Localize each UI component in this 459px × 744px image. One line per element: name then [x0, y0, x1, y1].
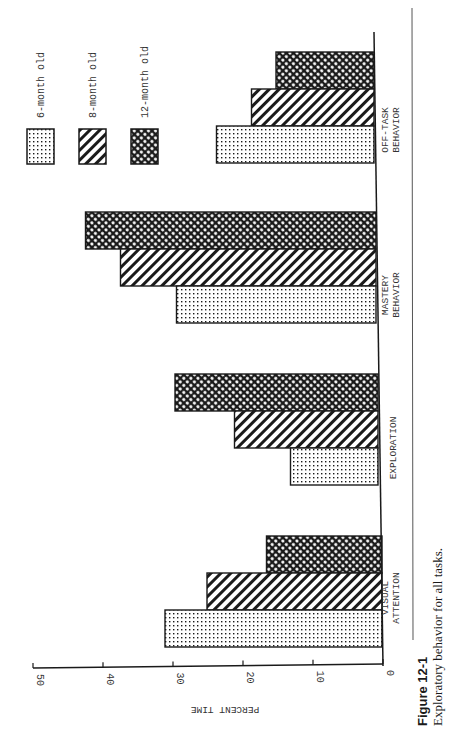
legend-item: 12-month old	[131, 46, 158, 164]
bar-8-month-old	[235, 411, 379, 448]
caption-rule	[412, 8, 413, 640]
category-label: BEHAVIOR	[391, 107, 402, 153]
bar-group-visual-attention	[165, 536, 382, 647]
category-labels: VISUALATTENTIONEXPLORATIONMASTERYBEHAVIO…	[380, 107, 402, 624]
category-label: OFF-TASK	[380, 107, 391, 153]
legend-swatch	[131, 129, 158, 164]
bar-6-month-old	[177, 286, 377, 323]
tick-label: 50	[34, 674, 45, 686]
tick-label: 40	[104, 673, 115, 685]
bar-group-mastery-behavior	[86, 212, 377, 323]
bar-6-month-old	[217, 126, 375, 163]
legend-label: 8-month old	[88, 52, 99, 118]
category-label: VISUAL	[380, 581, 391, 616]
bar-8-month-old	[252, 89, 375, 126]
bar-group-exploration	[175, 374, 378, 485]
bar-6-month-old	[165, 610, 382, 647]
tick-label: 10	[314, 671, 325, 683]
category-label: MASTERY	[380, 275, 391, 315]
legend-item: 8-month old	[79, 52, 106, 164]
bar-12-month-old	[175, 374, 378, 411]
y-axis-label: PERCENT TIME	[191, 704, 260, 715]
value-axis-line	[33, 664, 383, 668]
value-axis: 01020304050	[33, 659, 395, 686]
bar-8-month-old	[121, 249, 377, 286]
bar-12-month-old	[267, 536, 383, 573]
tick-label: 20	[244, 672, 255, 684]
bar-groups	[86, 52, 383, 647]
bar-12-month-old	[86, 212, 377, 249]
figure-number: Figure 12-1	[415, 657, 430, 726]
legend-item: 6-month old	[27, 52, 54, 164]
bar-6-month-old	[291, 448, 379, 485]
legend: 6-month old8-month old12-month old	[27, 46, 158, 164]
tick-label: 0	[384, 670, 395, 676]
legend-label: 12-month old	[140, 46, 151, 118]
category-label: BEHAVIOR	[391, 272, 402, 318]
category-label: EXPLORATION	[388, 417, 399, 480]
category-label: ATTENTION	[391, 572, 402, 623]
tick-label: 30	[174, 672, 185, 684]
bar-12-month-old	[276, 52, 374, 89]
legend-swatch	[27, 129, 54, 164]
legend-swatch	[79, 129, 106, 164]
legend-label: 6-month old	[36, 52, 47, 118]
figure-caption: Exploratory behavior for all tasks.	[430, 548, 445, 726]
bar-group-off-task-behavior	[217, 52, 375, 163]
chart-canvas: 6-month old8-month old12-month old 01020…	[0, 0, 459, 744]
bar-8-month-old	[207, 573, 382, 610]
